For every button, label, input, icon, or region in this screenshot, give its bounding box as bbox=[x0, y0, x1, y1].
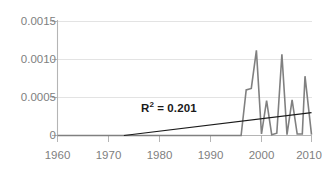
x-tick-label-1990: 1990 bbox=[198, 150, 224, 162]
y-tick-label-0015: 0.0015 bbox=[21, 16, 56, 28]
r-squared-annotation: R2 = 0.201 bbox=[138, 99, 200, 115]
gridlines bbox=[57, 22, 312, 98]
y-tick-label-0: 0 bbox=[50, 130, 56, 142]
y-tick-label-0005: 0.0005 bbox=[21, 92, 56, 104]
x-axis-ticks bbox=[58, 136, 312, 142]
x-tick-label-1970: 1970 bbox=[96, 150, 122, 162]
chart-title-cropped bbox=[0, 0, 322, 7]
y-axis-ticks bbox=[52, 22, 57, 136]
trendline bbox=[124, 113, 312, 136]
x-tick-label-2000: 2000 bbox=[249, 150, 275, 162]
data-series-line bbox=[58, 50, 312, 135]
chart-container: 0.0015 0.0010 0.0005 0 1960 1970 1980 19… bbox=[0, 0, 322, 172]
x-tick-label-1980: 1980 bbox=[147, 150, 173, 162]
y-tick-label-0010: 0.0010 bbox=[21, 54, 56, 66]
x-tick-label-1960: 1960 bbox=[45, 150, 71, 162]
r-squared-value: = 0.201 bbox=[154, 102, 197, 114]
x-tick-label-2010: 2010 bbox=[296, 150, 322, 162]
